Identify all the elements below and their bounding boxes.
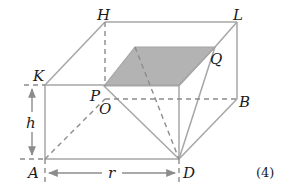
figure-caption: (4)	[256, 165, 274, 180]
label-H: H	[96, 6, 111, 24]
solid-edges	[45, 22, 237, 159]
label-Q: Q	[210, 50, 222, 68]
label-K: K	[32, 67, 45, 85]
label-r: r	[108, 164, 116, 182]
label-A: A	[26, 164, 39, 182]
label-D: D	[182, 164, 195, 182]
label-L: L	[232, 6, 243, 24]
geometry-diagram: H L K Q P O B h A r D (4)	[0, 0, 291, 194]
label-O: O	[99, 100, 111, 118]
label-h: h	[26, 114, 36, 132]
label-B: B	[238, 93, 250, 111]
shaded-section	[104, 47, 215, 86]
